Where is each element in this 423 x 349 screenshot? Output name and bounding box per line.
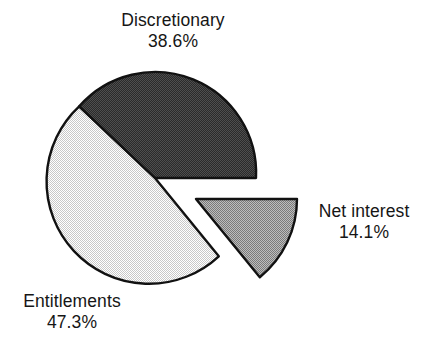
slice-label-net-interest: Net interest 14.1% [306,201,422,244]
slice-label-entitlements: Entitlements 47.3% [2,291,142,334]
pie-slice-net-interest [196,199,297,277]
slice-label-discretionary-name: Discretionary [98,10,248,31]
pie-chart: Discretionary 38.6% Net interest 14.1% E… [0,0,423,349]
slice-label-net-interest-name: Net interest [306,201,422,222]
slice-label-discretionary-value: 38.6% [98,31,248,52]
slice-label-discretionary: Discretionary 38.6% [98,10,248,53]
slice-label-entitlements-name: Entitlements [2,291,142,312]
slice-label-net-interest-value: 14.1% [306,222,422,243]
slice-label-entitlements-value: 47.3% [2,312,142,333]
